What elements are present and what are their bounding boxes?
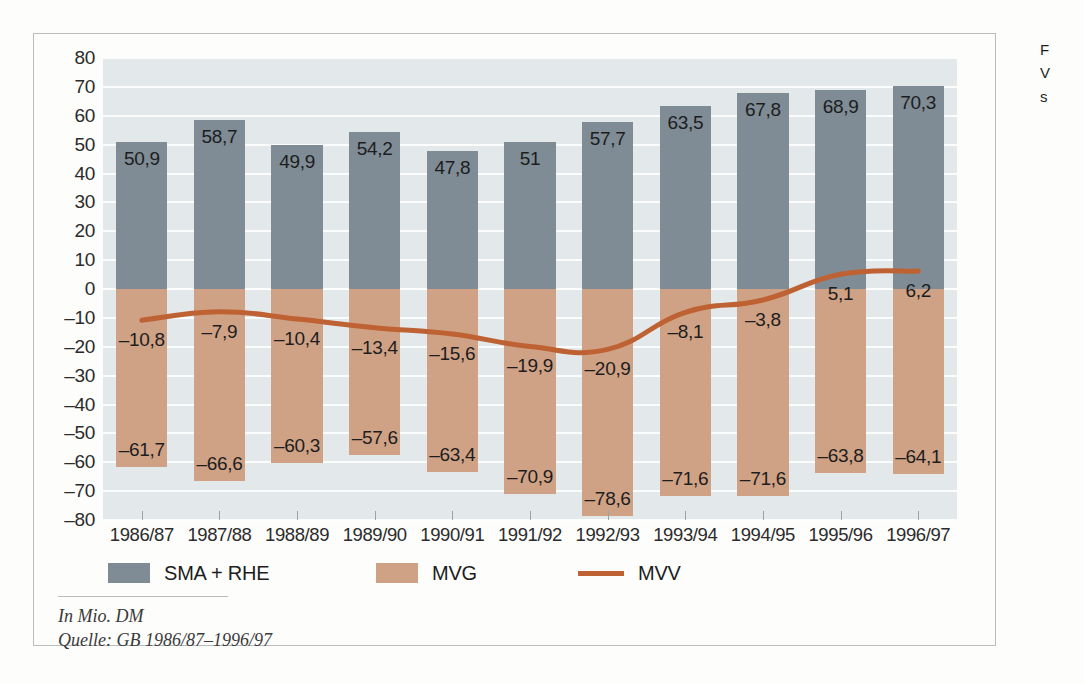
x-axis-tick [375,511,376,520]
bar-value-label-sma-rhe: 50,9 [103,148,181,170]
line-value-label-mvv: 5,1 [802,283,880,305]
y-axis-tick-label: –30 [33,365,95,387]
chart-column: 68,9–63,85,1 [802,58,880,520]
bar-value-label-sma-rhe: 68,9 [802,96,880,118]
chart-column: 63,5–71,6–8,1 [646,58,724,520]
footnote: In Mio. DM Quelle: GB 1986/87–1996/97 [58,604,272,653]
bar-value-label-mvg: –60,3 [258,435,336,457]
x-axis-tick-label: 1989/90 [336,524,414,546]
x-axis-tick-label: 1988/89 [258,524,336,546]
x-axis-tick [142,511,143,520]
x-axis-tick-label: 1992/93 [569,524,647,546]
y-axis: 80706050403020100–10–20–30–40–50–60–70–8… [33,58,95,520]
line-value-label-mvv: –3,8 [724,309,802,331]
y-axis-tick-label: 30 [33,191,95,213]
line-value-label-mvv: –13,4 [336,337,414,359]
plot-area: 50,9–61,7–10,858,7–66,6–7,949,9–60,3–10,… [103,58,957,520]
bar-sma-rhe [893,86,944,289]
chart-column: 49,9–60,3–10,4 [258,58,336,520]
bar-value-label-sma-rhe: 51 [491,148,569,170]
x-axis-tick [219,511,220,520]
x-axis-tick-label: 1995/96 [802,524,880,546]
legend-item-mvv[interactable]: MVV [578,562,681,585]
chart-column: 58,7–66,6–7,9 [181,58,259,520]
bar-value-label-mvg: –63,8 [802,445,880,467]
y-axis-tick-label: –60 [33,451,95,473]
y-axis-tick-label: –20 [33,336,95,358]
bar-value-label-sma-rhe: 63,5 [646,112,724,134]
x-axis-tick [452,511,453,520]
bar-value-label-mvg: –71,6 [724,468,802,490]
line-value-label-mvv: –19,9 [491,355,569,377]
y-axis-tick-label: 70 [33,76,95,98]
side-caption-line-1: F [1040,38,1084,61]
bar-mvg [504,289,555,494]
x-axis-tick-label: 1996/97 [879,524,957,546]
bar-value-label-mvg: –78,6 [569,488,647,510]
line-value-label-mvv: –15,6 [414,343,492,365]
bar-value-label-sma-rhe: 70,3 [879,92,957,114]
bar-value-label-sma-rhe: 58,7 [181,126,259,148]
y-axis-tick-label: –70 [33,480,95,502]
legend-color-swatch [108,563,150,583]
x-axis: 1986/871987/881988/891989/901990/911991/… [103,524,957,550]
footnote-rule [58,596,228,597]
x-axis-tick-label: 1986/87 [103,524,181,546]
chart-column: 67,8–71,6–3,8 [724,58,802,520]
x-axis-tick [530,511,531,520]
x-axis-tick [841,511,842,520]
y-axis-tick-label: 0 [33,278,95,300]
chart-column: 57,7–78,6–20,9 [569,58,647,520]
y-axis-tick-label: 60 [33,105,95,127]
bar-value-label-sma-rhe: 47,8 [414,157,492,179]
bar-mvg [660,289,711,496]
chart-column: 47,8–63,4–15,6 [414,58,492,520]
bar-value-label-mvg: –64,1 [879,446,957,468]
bar-value-label-mvg: –57,6 [336,427,414,449]
bar-mvg [582,289,633,516]
line-value-label-mvv: –8,1 [646,321,724,343]
line-value-label-mvv: –7,9 [181,321,259,343]
bar-value-label-sma-rhe: 57,7 [569,128,647,150]
line-value-label-mvv: –20,9 [569,358,647,380]
y-axis-tick-label: –40 [33,394,95,416]
x-axis-tick [297,511,298,520]
bar-value-label-mvg: –63,4 [414,444,492,466]
legend-item-mvg[interactable]: MVG [376,562,477,585]
footnote-unit: In Mio. DM [58,604,272,628]
line-value-label-mvv: –10,4 [258,328,336,350]
y-axis-tick-label: 80 [33,47,95,69]
y-axis-tick-label: 40 [33,163,95,185]
bar-value-label-mvg: –66,6 [181,453,259,475]
y-axis-tick-label: 20 [33,220,95,242]
x-axis-tick [685,511,686,520]
chart-column: 51–70,9–19,9 [491,58,569,520]
legend-color-swatch [376,563,418,583]
legend-label: MVG [432,562,477,585]
bar-sma-rhe [815,90,866,289]
line-value-label-mvv: –10,8 [103,329,181,351]
x-axis-tick-label: 1994/95 [724,524,802,546]
legend-label: MVV [638,562,681,585]
chart-column: 50,9–61,7–10,8 [103,58,181,520]
x-axis-tick-label: 1987/88 [181,524,259,546]
side-caption-line-3: s [1040,85,1084,108]
y-axis-tick-label: 10 [33,249,95,271]
footnote-source: Quelle: GB 1986/87–1996/97 [58,628,272,652]
legend-item-sma-rhe[interactable]: SMA + RHE [108,562,269,585]
chart-legend: SMA + RHEMVGMVV [108,558,728,588]
legend-label: SMA + RHE [164,562,269,585]
y-axis-tick-label: –50 [33,422,95,444]
x-axis-tick-label: 1993/94 [646,524,724,546]
bar-value-label-mvg: –71,6 [646,468,724,490]
bar-value-label-sma-rhe: 49,9 [258,151,336,173]
y-axis-tick-label: –10 [33,307,95,329]
side-caption: F V s [1040,38,1084,108]
bar-sma-rhe [737,93,788,289]
legend-line-marker [578,571,624,576]
y-axis-tick-label: 50 [33,134,95,156]
x-axis-tick-label: 1990/91 [414,524,492,546]
chart-column: 70,3–64,16,2 [879,58,957,520]
bar-value-label-sma-rhe: 67,8 [724,99,802,121]
bar-value-label-mvg: –70,9 [491,466,569,488]
